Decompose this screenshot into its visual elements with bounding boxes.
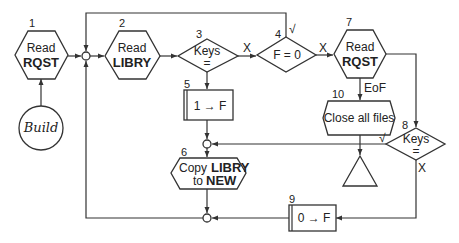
end-triangle [343,156,377,186]
node-7-line2: RQST [342,54,378,69]
node-6-number: 6 [181,146,187,158]
node-8-line2: = [412,144,419,158]
node-3-line2: = [203,56,210,70]
node-10-number: 10 [332,88,344,100]
build-label: Build [23,120,59,135]
node-10-close-all-files: 10 Close all files [323,88,395,135]
node-7-line1: Read [346,40,375,54]
node-5-number: 5 [184,78,190,90]
node-9-number: 9 [289,193,295,205]
node-9-set-f-0: 9 0 → F [289,193,336,231]
node-4-line1: F = 0 [273,48,301,62]
junction-b [203,140,211,148]
edge-label-8-x: X [418,161,426,175]
node-2-number: 2 [119,17,125,29]
node-9-line1: 0 → F [298,211,331,225]
node-8-number: 8 [402,119,408,131]
node-5-set-f-1: 5 1 → F [184,78,233,120]
edge-8-to-9 [336,160,416,218]
edge-label-3-x: X [243,41,251,55]
node-2-line1: Read [118,41,147,55]
node-1-number: 1 [29,17,35,29]
node-7-number: 7 [346,16,352,28]
edge-label-7-eof: EoF [364,81,386,95]
node-4-f-equals-0: 4 F = 0 √ X [257,22,327,72]
node-5-line1: 1 → F [194,99,227,113]
node-10-line1: Close all files [324,111,395,125]
node-4-number: 4 [275,28,281,40]
node-3-keys-equal: 3 Keys = X [178,28,251,72]
junction-c [203,214,211,222]
junction-a [82,52,90,60]
node-1-line2: RQST [23,55,59,70]
node-2-read-libry: 2 Read LIBRY [105,17,160,79]
flowchart: 1 Read RQST Build 2 Read LIBRY 3 Keys = … [0,0,459,243]
node-1-read-rqst: 1 Read RQST [15,17,68,79]
node-6-line2: toNEW [193,173,237,188]
node-6-copy-libry-to-new: 6 CopyLIBRY toNEW [171,146,250,189]
edge-label-8-check: √ [379,131,386,145]
node-2-line2: LIBRY [113,55,152,70]
node-3-number: 3 [196,28,202,40]
edge-label-4-x: X [319,41,327,55]
edge-label-4-check: √ [289,22,296,36]
node-1-line1: Read [27,41,56,55]
node-build: Build [19,106,63,150]
